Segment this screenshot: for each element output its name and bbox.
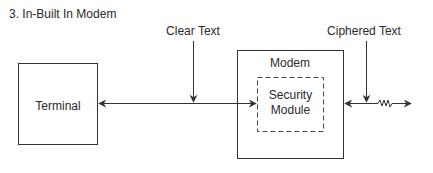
- security-module-node: Security Module: [258, 78, 324, 132]
- terminal-node: Terminal: [19, 64, 98, 145]
- diagram-canvas: 3. In-Built In Modem Terminal Clear Text…: [0, 0, 433, 173]
- diagram-title: 3. In-Built In Modem: [9, 7, 116, 21]
- modem-label: Modem: [270, 56, 310, 70]
- security-module-label-line2: Module: [271, 103, 311, 117]
- security-module-label-line1: Security: [269, 88, 312, 102]
- ciphered-text-label: Ciphered Text: [327, 24, 401, 38]
- terminal-label: Terminal: [35, 99, 80, 113]
- modem-line-link-arrow: [345, 100, 411, 107]
- clear-text-label: Clear Text: [166, 24, 220, 38]
